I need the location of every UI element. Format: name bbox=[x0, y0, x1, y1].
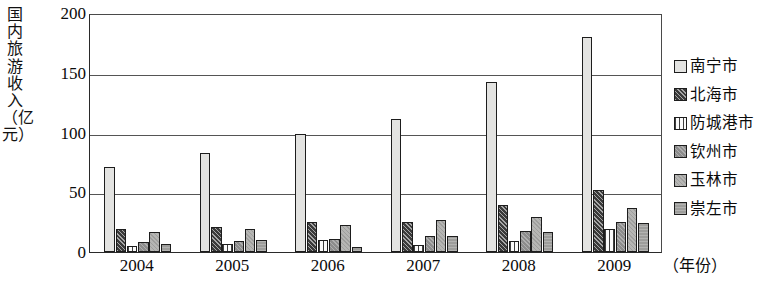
bar-崇左市-2006 bbox=[352, 247, 363, 252]
bars-layer bbox=[90, 15, 661, 252]
y-axis-tick-150: 150 bbox=[40, 65, 86, 82]
bar-南宁市-2008 bbox=[486, 82, 497, 252]
bar-玉林市-2005 bbox=[245, 229, 256, 252]
x-axis-unit-label: （年份） bbox=[663, 256, 727, 276]
bar-group-2004 bbox=[90, 15, 186, 252]
bar-南宁市-2009 bbox=[582, 37, 593, 252]
bar-南宁市-2006 bbox=[295, 134, 306, 252]
legend-label-钦州市: 钦州市 bbox=[690, 144, 738, 160]
legend-label-南宁市: 南宁市 bbox=[690, 58, 738, 74]
x-axis-tick-2007: 2007 bbox=[376, 256, 472, 276]
bar-北海市-2007 bbox=[402, 222, 413, 252]
bar-钦州市-2007 bbox=[425, 236, 436, 252]
legend-swatch-icon-钦州市 bbox=[674, 145, 687, 158]
legend-swatch-icon-玉林市 bbox=[674, 174, 687, 187]
bar-崇左市-2008 bbox=[543, 232, 554, 252]
bar-北海市-2009 bbox=[593, 190, 604, 252]
y-axis-tick-100: 100 bbox=[40, 125, 86, 142]
x-axis-tick-2008: 2008 bbox=[471, 256, 567, 276]
bar-钦州市-2005 bbox=[234, 241, 245, 252]
bar-玉林市-2004 bbox=[149, 232, 160, 252]
bar-钦州市-2009 bbox=[616, 222, 627, 252]
bar-南宁市-2007 bbox=[391, 119, 402, 252]
y-axis-tick-200: 200 bbox=[40, 5, 86, 22]
bar-group-2009 bbox=[568, 15, 664, 252]
y-axis-tick-0: 0 bbox=[40, 244, 86, 261]
bar-玉林市-2008 bbox=[531, 217, 542, 252]
bar-chart: 国内旅游收入（亿元） 050100150200 2004200520062007… bbox=[0, 0, 773, 283]
legend-item-钦州市[interactable]: 钦州市 bbox=[674, 138, 773, 167]
bar-group-2008 bbox=[472, 15, 568, 252]
x-axis-tick-2005: 2005 bbox=[185, 256, 281, 276]
bar-崇左市-2004 bbox=[161, 244, 172, 252]
y-axis-tick-labels: 050100150200 bbox=[30, 0, 86, 283]
x-axis-tick-2009: 2009 bbox=[567, 256, 663, 276]
bar-group-2005 bbox=[186, 15, 282, 252]
bar-防城港市-2007 bbox=[413, 245, 424, 252]
bar-北海市-2008 bbox=[498, 205, 509, 252]
legend-item-崇左市[interactable]: 崇左市 bbox=[674, 195, 773, 224]
x-axis-tick-labels: 200420052006200720082009 bbox=[89, 256, 662, 280]
bar-钦州市-2008 bbox=[520, 231, 531, 253]
legend-swatch-icon-崇左市 bbox=[674, 202, 687, 215]
bar-钦州市-2004 bbox=[138, 242, 149, 252]
x-axis-tick-2006: 2006 bbox=[280, 256, 376, 276]
legend-swatch-icon-防城港市 bbox=[674, 117, 687, 130]
plot-area bbox=[89, 14, 662, 253]
bar-玉林市-2007 bbox=[436, 220, 447, 252]
bar-防城港市-2005 bbox=[222, 244, 233, 252]
x-axis-tick-2004: 2004 bbox=[89, 256, 185, 276]
legend-item-南宁市[interactable]: 南宁市 bbox=[674, 52, 773, 81]
legend-label-防城港市: 防城港市 bbox=[690, 115, 754, 131]
bar-玉林市-2006 bbox=[340, 225, 351, 252]
legend-label-北海市: 北海市 bbox=[690, 87, 738, 103]
bar-崇左市-2009 bbox=[638, 223, 649, 252]
bar-group-2007 bbox=[377, 15, 473, 252]
legend-swatch-icon-南宁市 bbox=[674, 60, 687, 73]
bar-南宁市-2005 bbox=[200, 153, 211, 252]
bar-北海市-2006 bbox=[307, 222, 318, 252]
bar-玉林市-2009 bbox=[627, 208, 638, 252]
bar-钦州市-2006 bbox=[329, 239, 340, 252]
bar-崇左市-2005 bbox=[256, 240, 267, 252]
y-axis-tick-50: 50 bbox=[40, 184, 86, 201]
bar-防城港市-2009 bbox=[604, 229, 615, 252]
bar-北海市-2005 bbox=[211, 227, 222, 252]
legend-label-崇左市: 崇左市 bbox=[690, 201, 738, 217]
bar-防城港市-2004 bbox=[127, 246, 138, 252]
bar-崇左市-2007 bbox=[447, 236, 458, 252]
bar-南宁市-2004 bbox=[104, 167, 115, 252]
bar-防城港市-2008 bbox=[509, 241, 520, 252]
legend-item-北海市[interactable]: 北海市 bbox=[674, 81, 773, 110]
bar-北海市-2004 bbox=[116, 229, 127, 252]
legend: 南宁市北海市防城港市钦州市玉林市崇左市 bbox=[674, 52, 773, 223]
legend-swatch-icon-北海市 bbox=[674, 88, 687, 101]
legend-label-玉林市: 玉林市 bbox=[690, 172, 738, 188]
y-axis-title: 国内旅游收入（亿元） bbox=[2, 6, 28, 250]
legend-item-玉林市[interactable]: 玉林市 bbox=[674, 166, 773, 195]
bar-group-2006 bbox=[281, 15, 377, 252]
legend-item-防城港市[interactable]: 防城港市 bbox=[674, 109, 773, 138]
bar-防城港市-2006 bbox=[318, 240, 329, 252]
